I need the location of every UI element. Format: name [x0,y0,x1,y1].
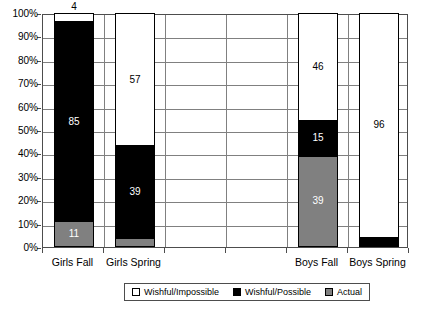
x-axis-tick [164,248,165,253]
horizontal-gridline [43,109,407,110]
bar-segment[interactable]: 15 [298,121,338,156]
x-axis-category-label: Boys Spring [328,256,427,268]
bar-segment-value-label: 46 [312,62,323,72]
y-axis-tick-label: 70% [2,79,38,89]
stacked-bar-chart: 100%90%80%70%60%50%40%30%20%10%0% 411854… [0,0,427,315]
legend-swatch-black [233,288,241,296]
chart-legend: Wishful/ImpossibleWishful/PossibleActual [124,283,370,301]
bar-segment-value-label: 4 [54,2,94,12]
y-axis-tick-label: 100% [2,9,38,19]
legend-item[interactable]: Wishful/Possible [233,287,311,297]
y-axis-tick-label: 10% [2,220,38,230]
bar-segment-value-label: 11 [69,229,79,239]
horizontal-gridline [43,226,407,227]
bar-stack[interactable]: 3957 [115,13,155,247]
x-axis-tick [408,248,409,253]
category-gridline [104,15,105,247]
y-axis-tick-label: 60% [2,103,38,113]
bar-segment[interactable]: 96 [359,13,399,238]
y-axis-tick-label: 90% [2,32,38,42]
bar-stack[interactable]: 1185 [54,13,94,247]
x-axis-tick [347,248,348,253]
y-axis-tick-label: 0% [2,243,38,253]
y-axis-tick-label: 50% [2,126,38,136]
y-axis: 100%90%80%70%60%50%40%30%20%10%0% [0,14,38,248]
bar-segment-value-label: 15 [312,133,323,143]
bar-segment-value-label: 39 [129,187,140,197]
x-axis-tick [225,248,226,253]
bar-stack[interactable]: 96 [359,13,399,247]
horizontal-gridline [43,132,407,133]
plot-area: 4118543957391546496 [42,14,408,248]
x-axis-tick [103,248,104,253]
bar-segment[interactable] [359,238,399,247]
bar-segment[interactable]: 11 [54,221,94,247]
category-gridline [348,15,349,247]
horizontal-gridline [43,62,407,63]
legend-item[interactable]: Actual [325,287,362,297]
bar-segment-value-label: 85 [68,117,79,127]
category-gridline [165,15,166,247]
y-axis-tick-label: 20% [2,196,38,206]
bar-segment[interactable] [54,13,94,22]
x-axis-tick [42,248,43,253]
bar-segment[interactable]: 57 [115,13,155,146]
bar-segment[interactable] [115,238,155,247]
legend-item[interactable]: Wishful/Impossible [132,287,219,297]
legend-swatch-white [132,288,140,296]
legend-label: Wishful/Possible [245,287,311,297]
bar-segment-value-label: 39 [312,196,323,206]
bar-segment[interactable]: 39 [298,156,338,247]
y-axis-tick-label: 40% [2,149,38,159]
bar-stack[interactable]: 391546 [298,13,338,247]
bar-segment[interactable]: 46 [298,13,338,121]
bar-segment[interactable]: 85 [54,22,94,221]
bar-segment-value-label: 57 [129,75,140,85]
horizontal-gridline [43,202,407,203]
horizontal-gridline [43,38,407,39]
horizontal-gridline [43,179,407,180]
x-axis-tick [286,248,287,253]
legend-swatch-gray [325,288,333,296]
category-gridline [287,15,288,247]
horizontal-gridline [43,85,407,86]
bar-segment[interactable]: 39 [115,146,155,237]
legend-label: Wishful/Impossible [144,287,219,297]
bar-segment-value-label: 96 [373,120,384,130]
legend-label: Actual [337,287,362,297]
category-gridline [226,15,227,247]
x-axis-category-label: Girls Spring [84,256,184,268]
horizontal-gridline [43,155,407,156]
y-axis-tick-label: 30% [2,173,38,183]
y-axis-tick-label: 80% [2,56,38,66]
